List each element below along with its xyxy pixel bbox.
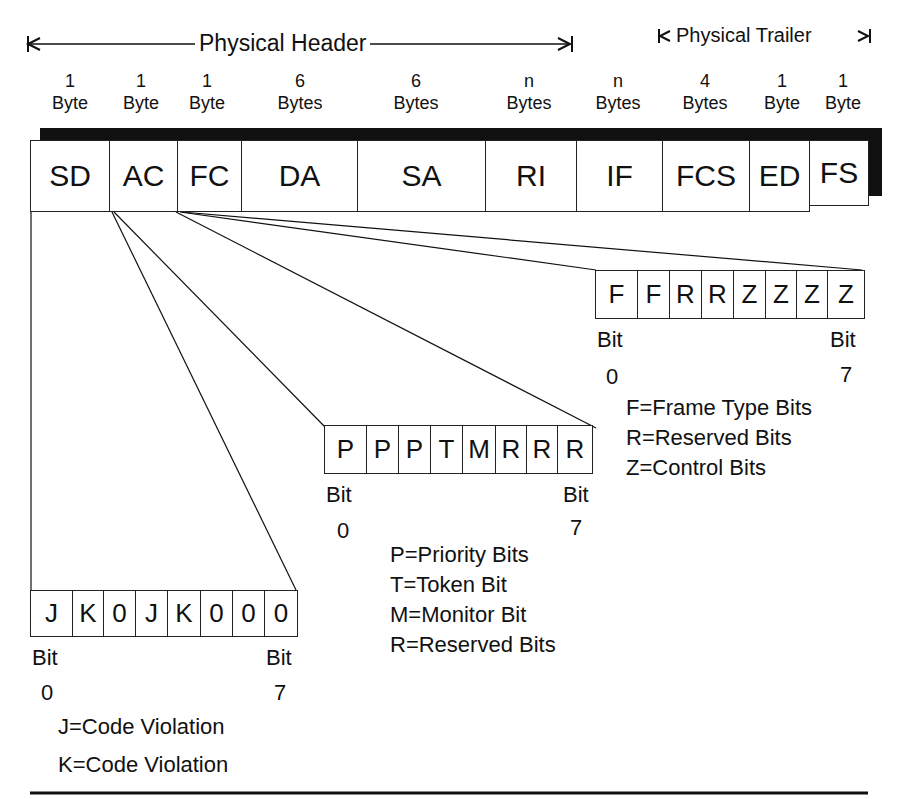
field-size-if: nBytes (578, 70, 658, 114)
sd-bit-end-label: Bit (266, 645, 292, 671)
ac-legend: P=Priority Bits T=Token Bit M=Monitor Bi… (390, 540, 556, 660)
field-size-fc: 1Byte (177, 70, 237, 114)
sd-bit-0: J (31, 591, 73, 636)
ac-bit-0: P (325, 426, 367, 473)
sd-bit-1: K (73, 591, 104, 636)
field-size-sd: 1Byte (40, 70, 100, 114)
ac-bit-3: T (431, 426, 463, 473)
sd-bit-start-num: 0 (41, 680, 53, 706)
fc-bit-4: Z (734, 271, 766, 318)
ac-bit-5: R (496, 426, 527, 473)
fc-bit-0: F (596, 271, 638, 318)
ac-bit-end-num: 7 (570, 515, 582, 541)
field-ri: RI (485, 140, 577, 212)
field-size-sa: 6Bytes (376, 70, 456, 114)
sd-bit-7: 0 (265, 591, 297, 636)
fc-bit-start-label: Bit (597, 327, 623, 353)
sd-bit-4: K (168, 591, 201, 636)
field-size-fcs: 4Bytes (665, 70, 745, 114)
sd-bit-2: 0 (104, 591, 136, 636)
sd-bit-5: 0 (201, 591, 233, 636)
fc-bit-6: Z (797, 271, 828, 318)
sd-bit-end-num: 7 (274, 680, 286, 706)
physical-trailer-label: Physical Trailer (676, 24, 812, 47)
sd-bit-6: 0 (233, 591, 265, 636)
frame-shadow-right (869, 128, 882, 196)
field-ed: ED (749, 140, 810, 212)
sd-bit-3: J (136, 591, 168, 636)
fc-bit-7: Z (828, 271, 864, 318)
ac-bit-4: M (463, 426, 496, 473)
fc-bit-3: R (702, 271, 734, 318)
field-size-fs: 1Byte (813, 70, 873, 114)
field-size-ri: nBytes (489, 70, 569, 114)
ac-bit-end-label: Bit (563, 482, 589, 508)
fc-bit-1: F (638, 271, 670, 318)
fc-bit-end-num: 7 (840, 362, 852, 388)
field-size-da: 6Bytes (260, 70, 340, 114)
field-da: DA (241, 140, 358, 212)
fc-bit-end-label: Bit (830, 327, 856, 353)
field-ac: AC (109, 140, 178, 212)
field-fc: FC (177, 140, 242, 212)
fc-bit-5: Z (766, 271, 797, 318)
field-size-ac: 1Byte (111, 70, 171, 114)
physical-header-label: Physical Header (195, 30, 370, 57)
ac-bit-7: R (558, 426, 592, 473)
field-if: IF (576, 140, 663, 212)
sd-legend: J=Code Violation K=Code Violation (58, 708, 228, 784)
fc-bit-start-num: 0 (606, 364, 618, 390)
sd-bit-start-label: Bit (32, 645, 58, 671)
ac-bit-1: P (367, 426, 399, 473)
field-sd: SD (30, 140, 110, 212)
ac-bit-start-num: 0 (337, 518, 349, 544)
fc-legend: F=Frame Type Bits R=Reserved Bits Z=Cont… (626, 393, 812, 483)
fc-bit-2: R (670, 271, 702, 318)
field-fs: FS (809, 140, 869, 206)
fc-bit-row: F F R R Z Z Z Z (595, 270, 865, 319)
ac-bit-row: P P P T M R R R (324, 425, 593, 474)
ac-bit-2: P (399, 426, 431, 473)
sd-bit-row: J K 0 J K 0 0 0 (30, 590, 298, 637)
field-size-ed: 1Byte (752, 70, 812, 114)
ac-bit-start-label: Bit (326, 482, 352, 508)
ac-bit-6: R (527, 426, 558, 473)
field-sa: SA (357, 140, 486, 212)
field-fcs: FCS (662, 140, 750, 212)
